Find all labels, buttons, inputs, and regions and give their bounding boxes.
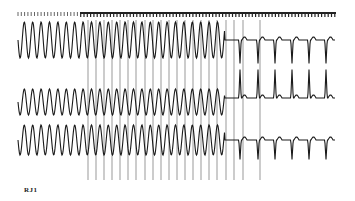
ecg-leads — [18, 22, 335, 160]
figure-label: RJ1 — [24, 186, 38, 194]
ecg-tracing — [0, 0, 355, 201]
time-marker-row — [18, 12, 336, 17]
lead-2-trace — [18, 69, 335, 115]
lead-3-trace — [18, 125, 335, 160]
lead-1-trace — [18, 22, 335, 63]
